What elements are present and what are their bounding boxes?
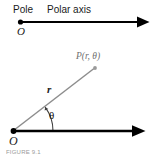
pole-dot-top [18, 19, 23, 24]
radius-label: r [47, 84, 51, 95]
origin-label-bottom: O [9, 135, 18, 147]
polar-coordinate-figure: Pole Polar axis O P(r, θ) r θ O FIGURE 9… [0, 0, 151, 156]
radius-ray-line [14, 69, 95, 131]
angle-arc-tick [45, 107, 49, 110]
radius-ray-group [14, 66, 97, 130]
pole-label: Pole [13, 5, 33, 15]
point-p-dot [93, 66, 97, 70]
top-axis-group [18, 19, 139, 24]
angle-theta-label: θ [49, 110, 54, 121]
figure-caption: FIGURE 9.1 [6, 149, 146, 156]
figure-canvas [0, 0, 151, 156]
point-p-label: P(r, θ) [76, 52, 100, 62]
bottom-axis-group [11, 128, 134, 134]
polar-axis-label: Polar axis [47, 5, 91, 15]
origin-label-top: O [17, 26, 25, 37]
